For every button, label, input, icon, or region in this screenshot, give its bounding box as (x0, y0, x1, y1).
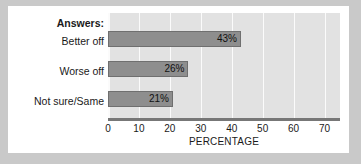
category-axis: Answers: Better off Worse off Not sure/S… (8, 13, 108, 123)
bar-row-not-sure-same: 21% (108, 91, 340, 107)
x-tick-label-70: 70 (319, 123, 330, 135)
bar-row-better-off: 43% (108, 31, 340, 47)
x-tick-label-40: 40 (226, 123, 237, 135)
x-tick-labels: 010203040506070 (108, 123, 340, 137)
x-tick-label-30: 30 (195, 123, 206, 135)
x-tick-label-50: 50 (257, 123, 268, 135)
x-tick-label-0: 0 (105, 123, 111, 135)
category-label-better-off: Better off (8, 35, 104, 47)
x-tick-label-10: 10 (133, 123, 144, 135)
figure-root: 43%26%21% Answers: Better off Worse off … (0, 0, 361, 164)
chart-card: 43%26%21% Answers: Better off Worse off … (8, 6, 349, 153)
bar-value-not-sure-same: 21% (149, 92, 169, 106)
x-axis-title: PERCENTAGE (108, 136, 340, 147)
plot-area: 43%26%21% (108, 13, 340, 118)
x-axis-line (108, 118, 340, 121)
x-tick-label-60: 60 (288, 123, 299, 135)
legend-header-label: Answers: (8, 17, 104, 29)
bar-value-better-off: 43% (217, 32, 237, 46)
bar-value-worse-off: 26% (164, 62, 184, 76)
bar-row-worse-off: 26% (108, 61, 340, 77)
category-label-not-sure-same: Not sure/Same (8, 95, 104, 107)
category-label-worse-off: Worse off (8, 65, 104, 77)
x-tick-label-20: 20 (164, 123, 175, 135)
